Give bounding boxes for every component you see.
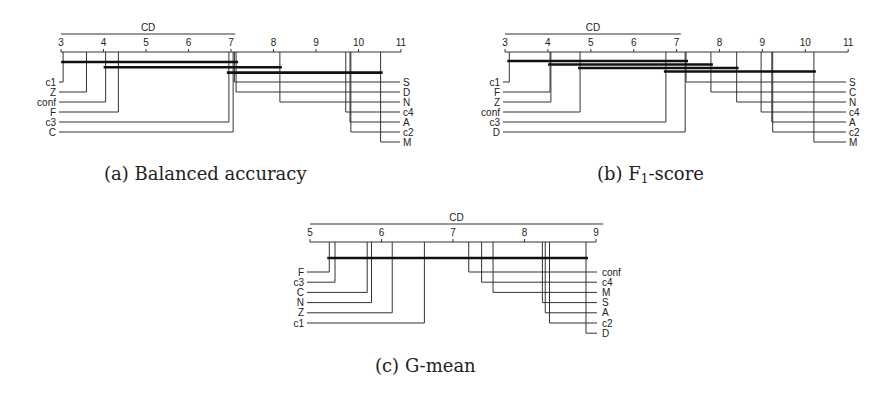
axis-tick-label: 9 bbox=[593, 227, 599, 238]
method-connector bbox=[503, 52, 551, 102]
axis-tick-label: 8 bbox=[717, 37, 723, 48]
method-connector bbox=[381, 52, 400, 142]
axis-tick-label: 10 bbox=[353, 37, 365, 48]
method-connector bbox=[586, 242, 597, 333]
caption-f1-score: (b) F1-score bbox=[597, 163, 704, 186]
caption-prefix: (c) bbox=[375, 355, 399, 376]
axis-tick-label: 7 bbox=[450, 227, 456, 238]
axis-tick-label: 6 bbox=[379, 227, 385, 238]
axis-tick-label: 5 bbox=[588, 37, 594, 48]
method-label: c1 bbox=[293, 318, 304, 329]
method-label: M bbox=[849, 137, 857, 148]
cd-diagram-f1-score: CD34567891011c1FZconfc3DSCNc4Ac2M bbox=[481, 22, 860, 148]
method-label: D bbox=[493, 127, 500, 138]
method-connector bbox=[503, 52, 509, 82]
method-connector bbox=[59, 52, 106, 102]
cd-diagram-balanced-accuracy: CD34567891011c1ZconfFc3CSDNc4Ac2M bbox=[37, 22, 414, 148]
cd-label: CD bbox=[141, 22, 155, 33]
method-label: D bbox=[602, 328, 609, 339]
caption-text: F1-score bbox=[628, 163, 704, 184]
method-label: M bbox=[403, 137, 411, 148]
axis-tick-label: 8 bbox=[271, 37, 277, 48]
axis-tick-label: 11 bbox=[843, 37, 854, 48]
axis-tick-label: 6 bbox=[186, 37, 192, 48]
axis-tick-label: 4 bbox=[101, 37, 107, 48]
method-label: C bbox=[49, 127, 56, 138]
axis-tick-label: 3 bbox=[502, 37, 508, 48]
axis-tick-label: 5 bbox=[307, 227, 313, 238]
axis-tick-label: 4 bbox=[545, 37, 551, 48]
axis-tick-label: 10 bbox=[800, 37, 812, 48]
caption-g-mean: (c) G-mean bbox=[375, 355, 476, 376]
caption-prefix: (a) bbox=[104, 163, 129, 184]
method-connector bbox=[307, 242, 335, 282]
cd-label: CD bbox=[586, 22, 600, 33]
cd-label: CD bbox=[449, 212, 463, 223]
method-connector bbox=[503, 52, 550, 92]
axis-tick-label: 6 bbox=[631, 37, 637, 48]
axis-tick-label: 5 bbox=[143, 37, 149, 48]
method-connector bbox=[482, 242, 597, 282]
axis-tick-label: 11 bbox=[396, 37, 407, 48]
axis-tick-label: 9 bbox=[760, 37, 766, 48]
method-connector bbox=[59, 52, 63, 82]
method-connector bbox=[814, 52, 846, 142]
axis-tick-label: 7 bbox=[674, 37, 680, 48]
method-connector bbox=[307, 242, 329, 272]
axis-tick-label: 3 bbox=[58, 37, 64, 48]
method-connector bbox=[307, 242, 367, 292]
cd-diagrams-canvas: CD34567891011c1ZconfFc3CSDNc4Ac2M CD3456… bbox=[0, 0, 896, 396]
cd-diagram-g-mean: CD56789Fc3CNZc1confc4MSAc2D bbox=[293, 212, 621, 339]
axis-tick-label: 8 bbox=[522, 227, 528, 238]
axis-tick-label: 9 bbox=[313, 37, 319, 48]
method-connector bbox=[737, 52, 846, 102]
caption-prefix: (b) bbox=[597, 163, 623, 184]
caption-text: Balanced accuracy bbox=[135, 163, 307, 184]
method-connector bbox=[280, 52, 400, 102]
caption-text: G-mean bbox=[405, 355, 476, 376]
caption-balanced-accuracy: (a) Balanced accuracy bbox=[104, 163, 307, 184]
axis-tick-label: 7 bbox=[228, 37, 234, 48]
